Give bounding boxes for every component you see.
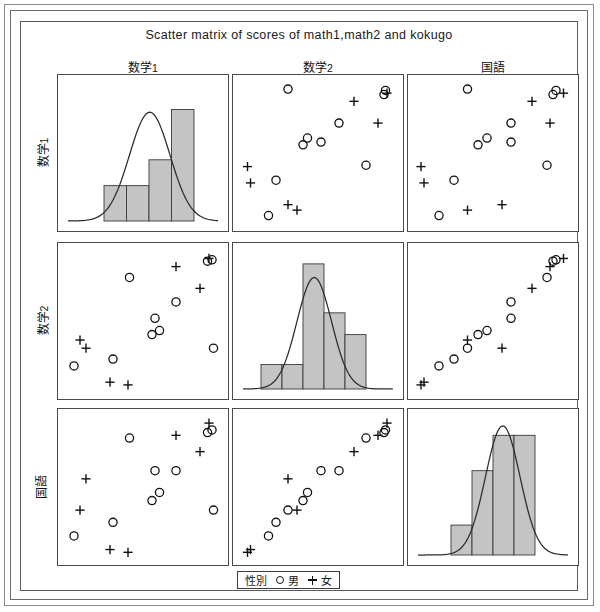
column-header-math2-main: 数学: [303, 61, 327, 75]
histogram-panel-math1: [57, 74, 229, 232]
page-title: Scatter matrix of scores of math1,math2 …: [21, 28, 577, 42]
column-header-math1: 数学1: [57, 58, 229, 75]
legend-item-male: 男: [276, 572, 299, 588]
column-header-math2-sub: 2: [327, 62, 333, 74]
row-header-kokugo-main: 国語: [35, 475, 49, 499]
column-header-math1-main: 数学: [128, 61, 152, 75]
legend-title: 性別: [245, 572, 267, 588]
row-header-math2-main: 数学: [37, 311, 51, 335]
legend: 性別 男 女: [237, 571, 340, 589]
histogram-panel-kokugo: [407, 408, 579, 566]
column-header-math2: 数学2: [232, 58, 404, 75]
legend-label-female: 女: [321, 572, 332, 588]
column-header-math1-sub: 1: [152, 62, 158, 74]
column-header-kokugo-main: 国語: [481, 61, 505, 75]
scatter-panel-kokugo-vs-math2: [407, 242, 579, 400]
row-header-math1-sub: 1: [38, 138, 50, 144]
plus-icon: [308, 576, 317, 585]
row-header-math2-sub: 2: [38, 306, 50, 312]
scatter-panel-math1-vs-kokugo: [57, 408, 229, 566]
row-header-kokugo: 国語: [28, 478, 46, 495]
scatter-panel-math2-vs-kokugo: [232, 408, 404, 566]
scatter-panel-math2-vs-math1: [232, 74, 404, 232]
histogram-panel-math2: [232, 242, 404, 400]
scatter-panel-math1-vs-math2: [57, 242, 229, 400]
circle-icon: [276, 576, 284, 584]
legend-label-male: 男: [288, 572, 299, 588]
row-header-math2: 数学2: [28, 312, 46, 329]
column-header-kokugo: 国語: [407, 58, 579, 75]
scatter-panel-kokugo-vs-math1: [407, 74, 579, 232]
legend-item-female: 女: [308, 572, 332, 588]
row-header-math1: 数学1: [28, 144, 46, 161]
row-header-math1-main: 数学: [37, 143, 51, 167]
